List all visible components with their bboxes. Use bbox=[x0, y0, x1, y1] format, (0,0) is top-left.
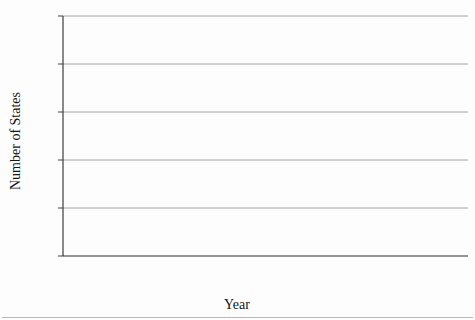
line-chart: Number of States Year bbox=[0, 0, 475, 320]
y-axis-title: Number of States bbox=[8, 92, 23, 190]
x-axis-title: Year bbox=[224, 297, 250, 312]
chart-figure: Number of States Year bbox=[0, 0, 475, 320]
